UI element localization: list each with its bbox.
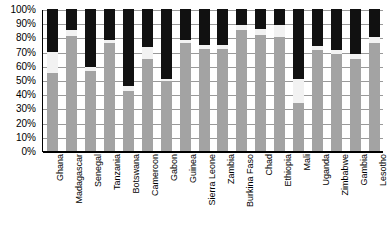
bar-segment-bottom-segment xyxy=(47,73,58,151)
bar-segment-bottom-segment xyxy=(331,54,342,151)
bar-zimbabwe[interactable] xyxy=(331,10,342,151)
bar-cameroon[interactable] xyxy=(142,10,153,151)
bar-segment-top-segment xyxy=(47,9,58,52)
y-axis-tick-label: 40% xyxy=(16,90,36,100)
bar-mali[interactable] xyxy=(293,10,304,151)
bar-segment-top-segment xyxy=(274,9,285,25)
gridline xyxy=(43,152,383,153)
bar-tanzania[interactable] xyxy=(104,10,115,151)
y-axis-tick-label: 0% xyxy=(22,147,36,157)
bar-segment-middle-segment xyxy=(312,46,323,50)
bar-segment-top-segment xyxy=(85,9,96,67)
y-axis-tick-label: 30% xyxy=(16,104,36,114)
x-axis-tick-label: Zimbabwe xyxy=(340,154,351,196)
bar-segment-middle-segment xyxy=(47,52,58,73)
bar-segment-bottom-segment xyxy=(161,81,172,151)
bar-sierra-leone[interactable] xyxy=(199,10,210,151)
bar-segment-bottom-segment xyxy=(66,36,77,151)
bar-uganda[interactable] xyxy=(312,10,323,151)
x-axis-tick-label: Ghana xyxy=(55,154,66,181)
bar-segment-middle-segment xyxy=(369,37,380,43)
bar-ethiopia[interactable] xyxy=(274,10,285,151)
bar-zambia[interactable] xyxy=(217,10,228,151)
x-axis-tick-label: Sierra Leone xyxy=(207,154,218,206)
bar-segment-middle-segment xyxy=(350,54,361,58)
bar-botswana[interactable] xyxy=(123,10,134,151)
bar-segment-top-segment xyxy=(293,9,304,79)
bar-segment-middle-segment xyxy=(274,25,285,38)
x-axis-labels: GhanaMadagascarSenegalTanzaniaBotswanaCa… xyxy=(42,154,383,236)
bar-segment-bottom-segment xyxy=(123,91,134,151)
bar-segment-top-segment xyxy=(255,9,266,29)
bar-segment-top-segment xyxy=(161,9,172,79)
x-axis-tick-label: Mali xyxy=(302,154,313,171)
bar-segment-middle-segment xyxy=(104,40,115,43)
bar-segment-middle-segment xyxy=(123,86,134,92)
bar-lesotho[interactable] xyxy=(369,10,380,151)
x-axis-tick-label: Ethiopia xyxy=(283,154,294,187)
x-axis-tick-label: Guinea xyxy=(188,154,199,183)
bar-segment-top-segment xyxy=(104,9,115,40)
y-axis-tick-label: 50% xyxy=(16,76,36,86)
x-axis-tick-label: Madagascar xyxy=(74,154,85,204)
bar-segment-middle-segment xyxy=(161,79,172,82)
bar-segment-middle-segment xyxy=(236,25,247,31)
bar-segment-bottom-segment xyxy=(217,49,228,151)
bar-segment-bottom-segment xyxy=(255,35,266,151)
bar-segment-middle-segment xyxy=(293,79,304,103)
bar-segment-middle-segment xyxy=(199,45,210,49)
x-axis-tick-label: Chad xyxy=(264,154,275,176)
bar-segment-middle-segment xyxy=(85,67,96,71)
bar-segment-middle-segment xyxy=(217,45,228,49)
bar-segment-bottom-segment xyxy=(142,59,153,151)
bar-burkina-faso[interactable] xyxy=(236,10,247,151)
bar-segment-bottom-segment xyxy=(369,43,380,151)
y-axis-tick-label: 70% xyxy=(16,48,36,58)
bar-madagascar[interactable] xyxy=(66,10,77,151)
bar-senegal[interactable] xyxy=(85,10,96,151)
y-axis-tick-label: 20% xyxy=(16,119,36,129)
x-axis-tick-label: Lesotho xyxy=(378,154,389,186)
bar-segment-middle-segment xyxy=(255,29,266,35)
bar-segment-top-segment xyxy=(350,9,361,54)
y-axis-labels: 100%90%80%70%60%50%40%30%20%10%0% xyxy=(0,10,38,152)
bar-segment-top-segment xyxy=(369,9,380,37)
x-axis-tick-label: Zambia xyxy=(226,154,237,184)
bar-guinea[interactable] xyxy=(180,10,191,151)
bar-segment-middle-segment xyxy=(331,50,342,54)
bar-segment-bottom-segment xyxy=(85,71,96,151)
bar-segment-top-segment xyxy=(236,9,247,25)
bar-segment-bottom-segment xyxy=(180,43,191,151)
bar-segment-middle-segment xyxy=(180,40,191,43)
x-axis-tick-label: Gabon xyxy=(169,154,180,181)
bar-gambia[interactable] xyxy=(350,10,361,151)
y-axis-tick-label: 80% xyxy=(16,33,36,43)
bar-segment-top-segment xyxy=(312,9,323,46)
bar-segment-top-segment xyxy=(199,9,210,45)
bar-segment-bottom-segment xyxy=(312,50,323,151)
x-axis-tick-label: Cameroon xyxy=(150,154,161,196)
bar-segment-bottom-segment xyxy=(104,43,115,151)
bar-segment-bottom-segment xyxy=(236,30,247,151)
bar-segment-top-segment xyxy=(123,9,134,86)
bar-segment-top-segment xyxy=(66,9,77,30)
plot-area xyxy=(42,10,383,152)
bar-segment-bottom-segment xyxy=(274,37,285,151)
y-axis-tick-label: 10% xyxy=(16,133,36,143)
y-axis-tick-label: 60% xyxy=(16,62,36,72)
bar-segment-middle-segment xyxy=(142,47,153,58)
x-axis-tick-label: Tanzania xyxy=(112,154,123,190)
x-axis-tick-label: Gambia xyxy=(359,154,370,186)
bar-gabon[interactable] xyxy=(161,10,172,151)
bar-segment-middle-segment xyxy=(66,30,77,36)
bar-segment-bottom-segment xyxy=(293,103,304,151)
bar-segment-top-segment xyxy=(180,9,191,40)
bar-ghana[interactable] xyxy=(47,10,58,151)
x-axis-tick-label: Botswana xyxy=(131,154,142,194)
bar-segment-top-segment xyxy=(142,9,153,47)
bar-chad[interactable] xyxy=(255,10,266,151)
bar-segment-top-segment xyxy=(217,9,228,45)
bar-group xyxy=(43,10,383,151)
y-axis-tick-label: 100% xyxy=(10,5,36,15)
